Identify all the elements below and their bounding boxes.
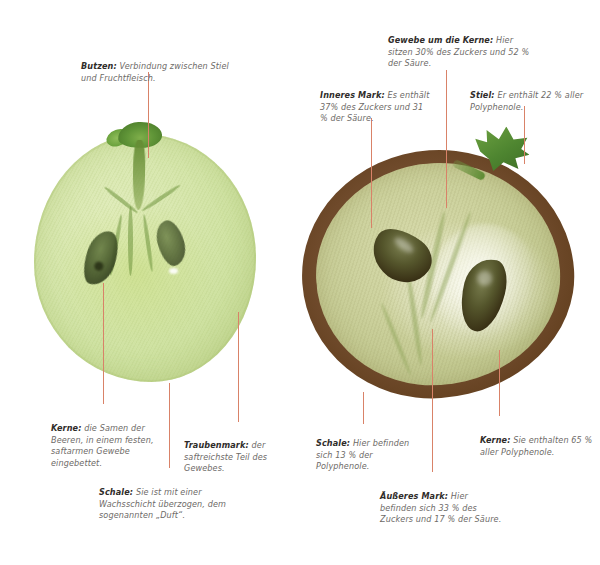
leader-line-traubenmark (238, 312, 239, 422)
leader-line-kerne-rechts (499, 350, 500, 416)
annotation-butzen: Butzen: Verbindung zwischen Stiel und Fr… (81, 50, 231, 84)
annotation-schale-links: Schale: Sie ist mit einer Wachsschicht ü… (99, 476, 247, 522)
annotation-kerne-rechts: Kerne: Sie enthalten 65 % aller Polyphen… (480, 424, 594, 458)
annotation-inneres-mark-term: Inneres Mark: (320, 90, 385, 100)
annotation-traubenmark: Traubenmark: der saftreichste Teil des G… (184, 429, 310, 475)
annotation-schale-rechts-term: Schale: (316, 438, 350, 448)
annotation-gewebe-um-die-kerne-term: Gewebe um die Kerne: (388, 35, 493, 45)
annotation-inneres-mark: Inneres Mark: Es enthält 37% des Zuckers… (320, 79, 430, 125)
annotation-kerne-rechts-term: Kerne: (480, 435, 511, 445)
annotation-butzen-term: Butzen: (81, 61, 117, 71)
annotation-traubenmark-term: Traubenmark: (184, 440, 249, 450)
leader-line-inneres-mark (371, 118, 372, 228)
annotation-schale-links-term: Schale: (99, 487, 133, 497)
annotation-schale-rechts: Schale: Hier befinden sich 13 % der Poly… (316, 427, 420, 473)
annotation-stiel-term: Stiel: (470, 90, 495, 100)
annotation-aeusseres-mark-term: Äußeres Mark: (380, 491, 448, 501)
grape-cross-section-image (302, 150, 574, 398)
grape-left-highlight (169, 268, 178, 274)
leader-line-stiel (524, 106, 525, 164)
annotation-aeusseres-mark: Äußeres Mark: Hier befinden sich 33 % de… (380, 480, 502, 526)
leader-line-schale-rechts (363, 392, 364, 424)
grape-longitudinal-section-image (34, 134, 256, 382)
leader-line-butzen (148, 72, 149, 158)
annotation-kerne-links: Kerne: die Samen der Beeren, in einem fe… (51, 412, 169, 469)
annotation-gewebe-um-die-kerne: Gewebe um die Kerne: Hier sitzen 30% des… (388, 24, 538, 70)
infographic-page: Butzen: Verbindung zwischen Stiel und Fr… (0, 0, 600, 565)
leader-line-aeusseres-mark (432, 329, 433, 472)
leader-line-gewebe-um-die-kerne (446, 70, 447, 208)
leader-line-kerne-links (103, 283, 104, 404)
annotation-stiel: Stiel: Er enthält 22 % aller Polyphenole… (470, 79, 588, 113)
annotation-kerne-links-term: Kerne: (51, 423, 82, 433)
leader-line-schale-links (169, 383, 170, 468)
grape-left-vein (128, 206, 133, 276)
